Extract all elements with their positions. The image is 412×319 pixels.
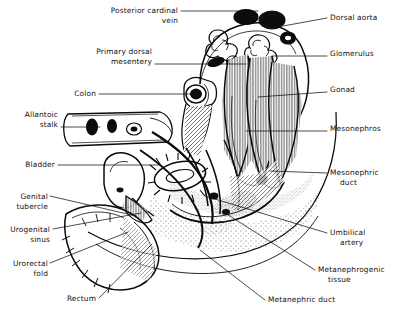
label-line: tubercle <box>16 202 48 211</box>
label-metanephric-duct: Metanephric duct <box>268 295 335 304</box>
label-genital-tubercle: Genitaltubercle <box>16 192 48 211</box>
label-line: mesentery <box>111 57 153 66</box>
label-gonad: Gonad <box>330 85 355 94</box>
label-line: Allantoic <box>25 110 58 119</box>
label-line: Urogenital <box>10 225 50 234</box>
label-line: Umbilical <box>330 228 365 237</box>
label-line: Glomerulus <box>330 49 374 58</box>
label-line: Primary dorsal <box>96 47 152 56</box>
label-rectum: Rectum <box>67 294 96 303</box>
label-line: Mesonephric <box>330 168 379 177</box>
label-line: Metanephrogenic <box>318 265 385 274</box>
label-line: Urorectal <box>13 259 48 268</box>
label-line: fold <box>34 269 49 278</box>
label-line: Rectum <box>67 294 96 303</box>
embryo-urogenital-diagram: Posterior cardinalveinDorsal aortaPrimar… <box>0 0 412 319</box>
label-line: vein <box>162 16 178 25</box>
label-line: Posterior cardinal <box>111 6 178 15</box>
label-glomerulus: Glomerulus <box>330 49 374 58</box>
label-line: Metanephric duct <box>268 295 335 304</box>
label-line: Mesonephros <box>330 124 381 133</box>
label-line: Genital <box>20 192 48 201</box>
label-line: sinus <box>30 235 50 244</box>
label-line: Colon <box>74 89 96 98</box>
label-mesonephros: Mesonephros <box>330 124 381 133</box>
label-line: Gonad <box>330 85 355 94</box>
label-dorsal-aorta: Dorsal aorta <box>330 13 377 22</box>
label-line: Bladder <box>25 160 55 169</box>
label-line: tissue <box>328 275 351 284</box>
label-line: artery <box>340 238 364 247</box>
label-line: duct <box>340 178 357 187</box>
label-colon: Colon <box>74 89 96 98</box>
label-bladder: Bladder <box>25 160 55 169</box>
label-line: stalk <box>40 120 59 129</box>
label-line: Dorsal aorta <box>330 13 377 22</box>
